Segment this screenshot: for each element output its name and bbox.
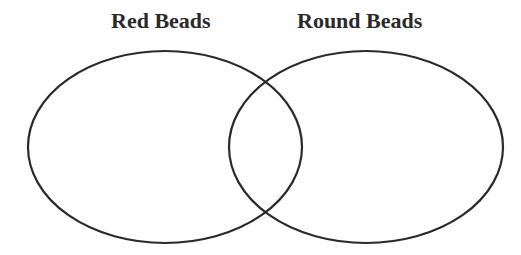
venn-diagram	[0, 0, 521, 255]
set-ellipse-round-beads	[229, 51, 503, 243]
set-ellipse-red-beads	[28, 51, 302, 243]
